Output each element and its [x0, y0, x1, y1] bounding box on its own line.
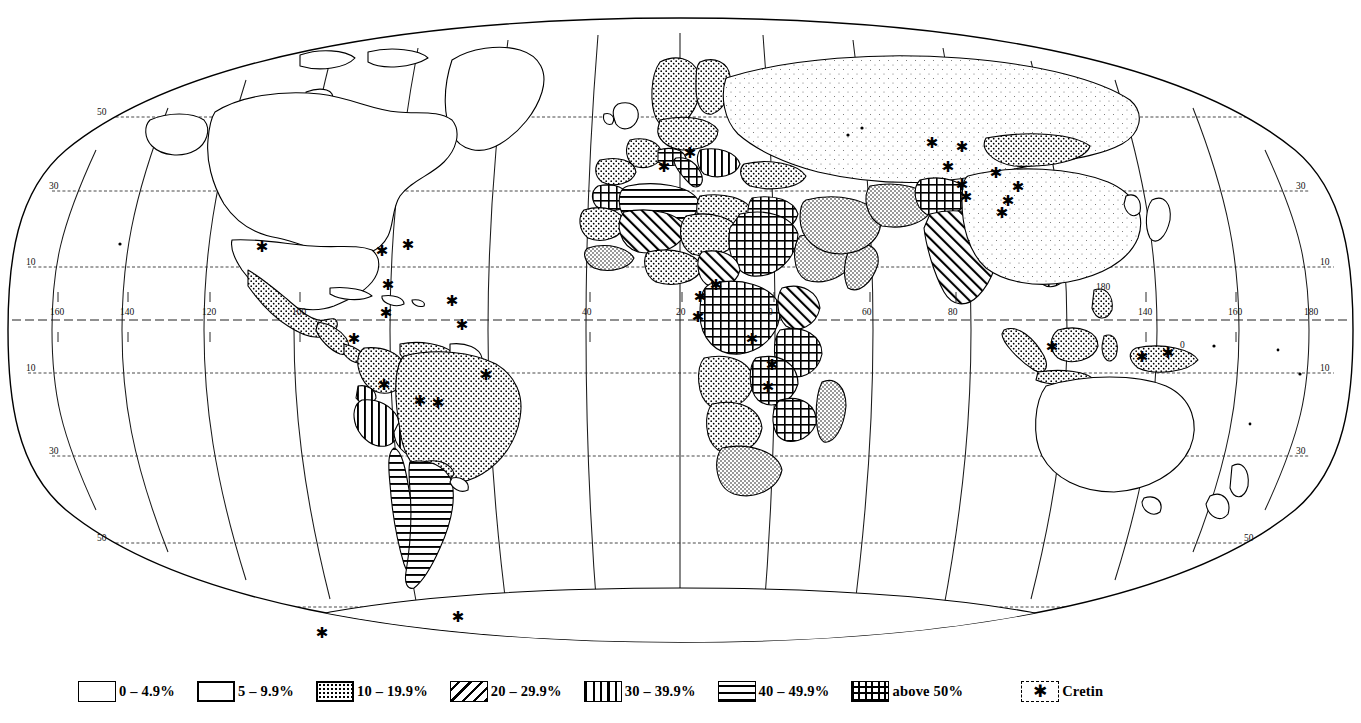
lon-label: 80 — [948, 307, 958, 317]
cretin-marker: ✱ — [1162, 344, 1175, 362]
cretin-marker: ✱ — [990, 164, 1003, 182]
region-new-zealand — [1230, 464, 1248, 497]
lat-label: 50 — [97, 533, 107, 543]
cretin-marker: ✱ — [658, 158, 671, 176]
lon-label: 180 — [1304, 307, 1319, 317]
lat-label: 10 — [26, 257, 36, 267]
cretin-marker: ✱ — [942, 158, 955, 176]
map-canvas: ✱ ✱ ✱ ✱ ✱ ✱ ✱ ✱ ✱ ✱ ✱ ✱ ✱ ✱ ✱ ✱ ✱ ✱ ✱ ✱ … — [0, 0, 1361, 660]
cretin-marker: ✱ — [692, 308, 705, 326]
map-graphic: ✱ ✱ ✱ ✱ ✱ ✱ ✱ ✱ ✱ ✱ ✱ ✱ ✱ ✱ ✱ ✱ ✱ ✱ ✱ ✱ … — [0, 0, 1361, 660]
cretin-marker: ✱ — [1046, 338, 1059, 356]
legend-item-6[interactable]: above 50% — [851, 681, 963, 702]
legend-label-20-29-9: 20 – 29.9% — [491, 684, 562, 700]
cretin-marker: ✱ — [316, 624, 329, 642]
region-sulawesi — [1102, 335, 1117, 361]
cretin-marker: ✱ — [710, 276, 723, 294]
cretin-marker: ✱ — [694, 288, 707, 306]
legend-label-0-4-9: 0 – 4.9% — [119, 684, 175, 700]
legend-item-0[interactable]: 0 – 4.9% — [78, 681, 175, 702]
lat-label: 10 — [1320, 363, 1330, 373]
lat-label: 30 — [49, 446, 59, 456]
cretin-marker: ✱ — [996, 204, 1009, 222]
asterisk-icon: ✱ — [1033, 683, 1047, 700]
lon-label: 0 — [1180, 340, 1185, 350]
lon-label: 140 — [1138, 307, 1153, 317]
region-british-isles — [613, 103, 638, 129]
legend-label-above-50: above 50% — [892, 684, 963, 700]
cretin-marker: ✱ — [382, 276, 395, 294]
cretin-marker: ✱ — [432, 394, 445, 412]
legend-swatch-cretin: ✱ — [1021, 681, 1059, 702]
legend-label-cretin: Cretin — [1062, 684, 1103, 700]
cretin-marker: ✱ — [380, 304, 393, 322]
legend-swatch-20-29-9 — [450, 681, 488, 702]
region-ireland — [603, 114, 613, 125]
legend-item-1[interactable]: 5 – 9.9% — [197, 681, 294, 702]
cretin-marker: ✱ — [956, 176, 969, 194]
lon-label: 0 — [768, 307, 773, 317]
cretin-marker: ✱ — [1136, 348, 1149, 366]
cretin-marker: ✱ — [348, 330, 361, 348]
lon-label: 160 — [50, 307, 65, 317]
legend-swatch-0-4-9 — [78, 681, 116, 702]
map-legend: 0 – 4.9% 5 – 9.9% 10 – 19.9% 20 – 29.9% … — [0, 660, 1361, 723]
legend-label-10-19-9: 10 – 19.9% — [357, 684, 428, 700]
legend-item-5[interactable]: 40 – 49.9% — [718, 681, 830, 702]
region-iberia — [596, 159, 636, 185]
legend-item-4[interactable]: 30 – 39.9% — [584, 681, 696, 702]
cretin-marker: ✱ — [480, 366, 493, 384]
lat-label: 10 — [1320, 257, 1330, 267]
legend-label-5-9-9: 5 – 9.9% — [238, 684, 294, 700]
lon-label: 60 — [862, 307, 872, 317]
lat-label: 50 — [97, 107, 107, 117]
lat-label: 10 — [26, 363, 36, 373]
cretin-marker: ✱ — [376, 242, 389, 260]
lat-label: 30 — [1296, 446, 1306, 456]
lon-label: 160 — [1228, 307, 1243, 317]
lon-label: 140 — [120, 307, 135, 317]
cretin-marker: ✱ — [956, 138, 969, 156]
cretin-marker: ✱ — [402, 236, 415, 254]
legend-item-3[interactable]: 20 – 29.9% — [450, 681, 562, 702]
cretin-marker: ✱ — [926, 134, 939, 152]
lat-label: 30 — [49, 181, 59, 191]
cretin-marker: ✱ — [446, 292, 459, 310]
cretin-marker: ✱ — [456, 316, 469, 334]
legend-item-2[interactable]: 10 – 19.9% — [316, 681, 428, 702]
cretin-marker: ✱ — [1012, 178, 1025, 196]
legend-swatch-5-9-9 — [197, 681, 235, 702]
lon-label: 100 — [292, 307, 307, 317]
legend-swatch-40-49-9 — [718, 681, 756, 702]
cretin-marker: ✱ — [766, 356, 779, 374]
legend-label-40-49-9: 40 – 49.9% — [759, 684, 830, 700]
cretin-marker: ✱ — [684, 144, 697, 162]
lon-label: 20 — [676, 307, 686, 317]
cretin-marker: ✱ — [378, 376, 391, 394]
legend-swatch-30-39-9 — [584, 681, 622, 702]
legend-item-cretin[interactable]: ✱ Cretin — [1021, 681, 1103, 702]
world-goiter-map-figure: ✱ ✱ ✱ ✱ ✱ ✱ ✱ ✱ ✱ ✱ ✱ ✱ ✱ ✱ ✱ ✱ ✱ ✱ ✱ ✱ … — [0, 0, 1361, 723]
legend-label-30-39-9: 30 – 39.9% — [625, 684, 696, 700]
cretin-marker: ✱ — [762, 378, 775, 396]
cretin-marker: ✱ — [746, 330, 759, 348]
cretin-marker: ✱ — [452, 608, 465, 626]
cretin-marker: ✱ — [414, 392, 427, 410]
legend-swatch-10-19-9 — [316, 681, 354, 702]
legend-swatch-above-50 — [851, 681, 889, 702]
lat-label: 30 — [1296, 181, 1306, 191]
region-alaska — [146, 114, 208, 155]
cretin-marker: ✱ — [256, 238, 269, 256]
lon-label: 180 — [1096, 282, 1111, 292]
lat-label: 50 — [1244, 533, 1254, 543]
lon-label: 120 — [202, 307, 217, 317]
lon-label: 40 — [582, 307, 592, 317]
